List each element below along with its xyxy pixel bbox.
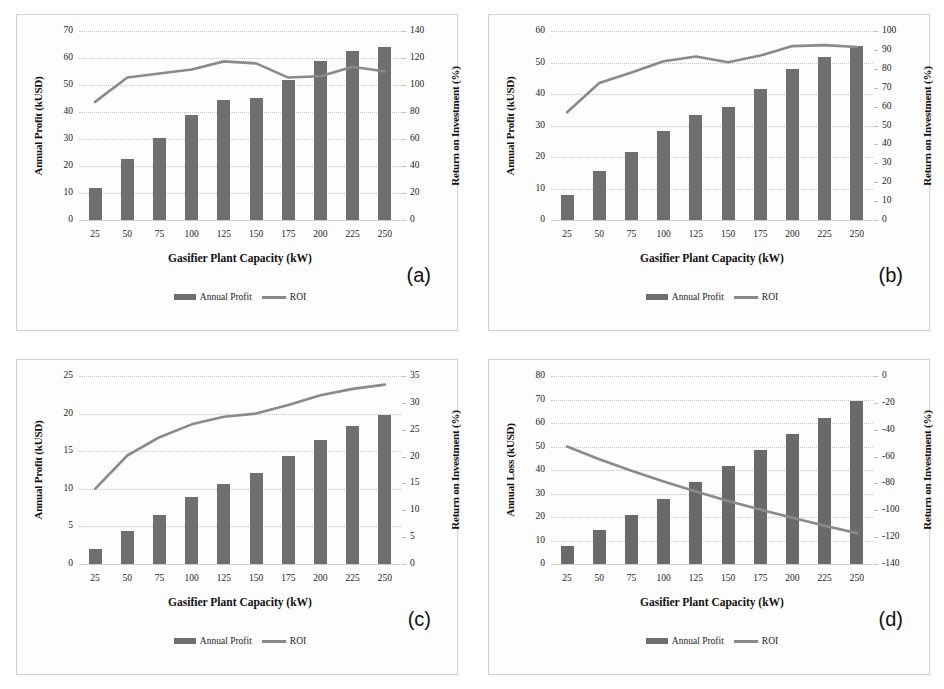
secondary-y-axis-tick-label: 40 [410,160,442,170]
y-axis-tick-label: 0 [517,214,545,224]
secondary-axis-tickmark [874,31,878,32]
plot-area [551,376,873,564]
secondary-y-axis-tick-label: 0 [882,214,914,224]
secondary-axis-tickmark [402,193,406,194]
secondary-axis-tickmark [402,403,406,404]
line-swatch-icon [734,296,758,299]
y-axis-tick-label: 30 [517,488,545,498]
secondary-y-axis-tick-label: -80 [882,477,914,487]
secondary-axis-tickmark [402,31,406,32]
y-axis-tick-label: 15 [45,445,73,455]
y-axis-tick-label: 30 [45,133,73,143]
secondary-axis-tickmark [874,163,878,164]
secondary-axis-tickmark [874,69,878,70]
secondary-y-axis-title: Return on Investment (%) [449,410,461,530]
secondary-y-axis-tick-label: 80 [410,106,442,116]
secondary-y-axis-tick-label: 10 [410,504,442,514]
legend: Annual ProfitROI [551,636,873,646]
secondary-y-axis-tick-label: 60 [882,101,914,111]
x-axis-tick-label: 75 [615,229,647,239]
secondary-y-axis-tick-label: 60 [410,133,442,143]
legend-item-roi[interactable]: ROI [734,292,778,302]
secondary-y-axis-tick-label: 100 [410,79,442,89]
secondary-axis-tickmark [402,564,406,565]
legend-item-annual-profit[interactable]: Annual Profit [174,292,252,302]
x-axis-tick-label: 175 [744,573,776,583]
x-axis-tick-label: 50 [583,573,615,583]
secondary-axis-tickmark [402,112,406,113]
legend-item-annual-profit[interactable]: Annual Profit [174,636,252,646]
x-axis-tick-label: 125 [208,573,240,583]
y-axis-tick-label: 0 [517,558,545,568]
x-axis-tick-label: 200 [776,229,808,239]
panel-border: 01020304050607080-140-120-100-80-60-40-2… [488,359,930,675]
y-axis-title: Annual Profit (kUSD) [504,76,516,175]
legend-item-annual-profit[interactable]: Annual Profit [646,636,724,646]
y-axis-tick-label: 40 [517,88,545,98]
legend-item-roi[interactable]: ROI [262,292,306,302]
chart-panel-d: 01020304050607080-140-120-100-80-60-40-2… [472,345,944,689]
secondary-y-axis-tick-label: -120 [882,531,914,541]
chart-panel-c: 0510152025051015202530352550751001251501… [0,345,472,689]
roi-line-layer [79,376,401,564]
secondary-y-axis-title: Return on Investment (%) [449,66,461,186]
panel-label: (a) [407,264,431,287]
legend-label-annual-profit: Annual Profit [672,636,724,646]
x-axis-tick-label: 75 [143,573,175,583]
secondary-y-axis-tick-label: 0 [410,214,442,224]
secondary-axis-tickmark [874,201,878,202]
y-axis-title: Annual Profit (kUSD) [32,76,44,175]
roi-line [567,45,857,112]
x-axis-tick-label: 250 [841,229,873,239]
secondary-y-axis-tick-label: 30 [882,157,914,167]
legend-label-roi: ROI [290,636,306,646]
line-swatch-icon [734,640,758,643]
secondary-axis-tickmark [874,50,878,51]
x-axis-tick-label: 150 [712,229,744,239]
x-axis-tick-label: 100 [648,573,680,583]
panel-label: (c) [408,608,431,631]
panel-border: 0102030405060700204060801001201402550751… [16,14,458,331]
legend-item-roi[interactable]: ROI [734,636,778,646]
x-axis-tick-label: 150 [712,573,744,583]
secondary-axis-tickmark [402,537,406,538]
secondary-axis-tickmark [874,107,878,108]
x-axis-tick-label: 125 [680,229,712,239]
legend-label-annual-profit: Annual Profit [200,636,252,646]
x-axis-tick-label: 50 [111,229,143,239]
roi-line [95,61,385,102]
y-axis-tick-label: 0 [45,558,73,568]
bar-swatch-icon [174,294,196,300]
secondary-axis-tickmark [402,430,406,431]
legend-item-roi[interactable]: ROI [262,636,306,646]
secondary-y-axis-tick-label: 10 [882,195,914,205]
x-axis-tick-label: 125 [208,229,240,239]
secondary-y-axis-tick-label: 5 [410,531,442,541]
y-axis-tick-label: 0 [45,214,73,224]
bar-swatch-icon [646,294,668,300]
secondary-axis-tickmark [402,457,406,458]
y-axis-tick-label: 20 [517,151,545,161]
y-axis-tick-label: 40 [517,464,545,474]
x-axis-tick-label: 200 [304,229,336,239]
x-axis-title: Gasifier Plant Capacity (kW) [79,252,401,264]
secondary-y-axis-tick-label: 25 [410,424,442,434]
x-axis-tick-label: 75 [143,229,175,239]
x-axis-tick-label: 25 [79,573,111,583]
y-axis-tick-label: 10 [45,483,73,493]
x-axis-title: Gasifier Plant Capacity (kW) [551,252,873,264]
x-axis-tick-label: 125 [680,573,712,583]
legend-item-annual-profit[interactable]: Annual Profit [646,292,724,302]
y-axis-tick-label: 10 [45,187,73,197]
x-axis-tick-label: 75 [615,573,647,583]
y-gridline [551,564,873,565]
secondary-y-axis-tick-label: 120 [410,52,442,62]
secondary-y-axis-tick-label: 20 [410,187,442,197]
x-axis-tick-label: 200 [304,573,336,583]
panel-border: 0102030405060010203040506070809010025507… [488,14,930,331]
line-swatch-icon [262,296,286,299]
x-axis-tick-label: 200 [776,573,808,583]
secondary-axis-tickmark [874,483,878,484]
y-axis-tick-label: 60 [45,52,73,62]
y-axis-title: Annual Loss (kUSD) [504,423,516,517]
